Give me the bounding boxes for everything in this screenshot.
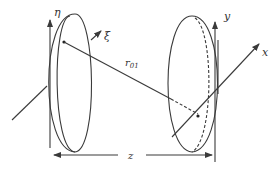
aperture-plane: [12, 14, 101, 152]
aperture-disk-outer: [49, 14, 92, 152]
r01-line-solid: [64, 42, 171, 99]
r01-vector: [64, 42, 198, 114]
aperture-disk-inner: [57, 16, 75, 152]
r01-line-dashed: [171, 99, 198, 114]
z-label: z: [127, 150, 134, 161]
r01-label-sub: 01: [130, 62, 139, 70]
observation-plane: [168, 16, 259, 162]
observation-disk-dashed: [192, 18, 209, 152]
diffraction-geometry-diagram: η ξ r01 y x z: [0, 0, 276, 172]
y-label: y: [223, 10, 231, 23]
xi-label: ξ: [104, 30, 111, 43]
observation-point: [196, 114, 199, 117]
incident-line: [12, 86, 47, 120]
r01-label: r01: [125, 57, 139, 70]
xi-axis: [91, 31, 101, 40]
x-label: x: [262, 46, 269, 59]
observation-disk-outer: [168, 16, 218, 152]
eta-label: η: [54, 6, 61, 19]
